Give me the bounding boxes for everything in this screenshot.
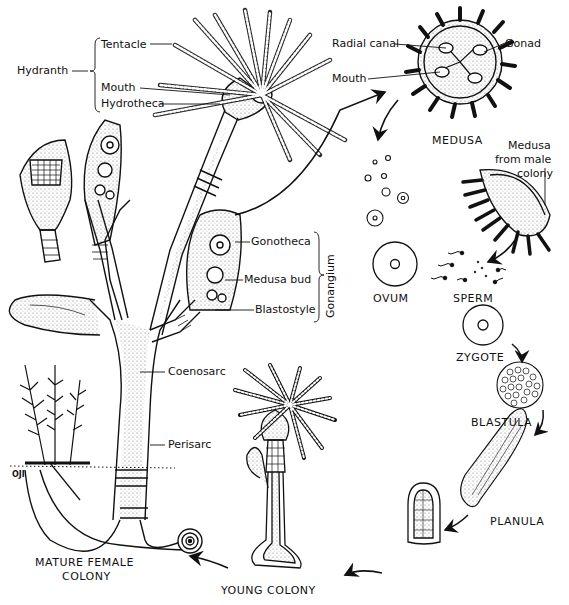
label-hydranth: Hydranth: [17, 65, 68, 77]
colony-silhouette: [10, 365, 175, 500]
label-medusa: MEDUSA: [432, 134, 483, 147]
label-mature-colony-2: COLONY: [62, 570, 111, 583]
zygote: [463, 305, 503, 345]
label-ovum: OVUM: [373, 292, 409, 305]
arrow-medusa-to-eggs: [378, 100, 398, 140]
label-tentacle: Tentacle: [101, 39, 147, 51]
label-zygote: ZYGOTE: [456, 351, 504, 364]
label-blastostyle: Blastostyle: [255, 304, 316, 316]
ovum: [373, 242, 417, 286]
label-radial-canal: Radial canal: [332, 38, 399, 50]
eggs: [365, 156, 409, 227]
arrow-medusa-to-sperm: [488, 240, 515, 262]
label-medusa-bud: Medusa bud: [244, 274, 311, 286]
label-sperm: SPERM: [453, 292, 493, 305]
label-mature-colony-1: MATURE FEMALE: [35, 556, 134, 569]
label-blastula: BLASTULA: [471, 416, 532, 429]
label-gonotheca: Gonotheca: [251, 236, 311, 248]
label-male-medusa-2: from male: [495, 154, 551, 166]
label-hydranth-mouth: Mouth: [101, 82, 135, 94]
label-perisarc: Perisarc: [168, 439, 211, 451]
label-gonad: Gonad: [505, 38, 541, 50]
male-medusa: [463, 168, 550, 254]
label-male-medusa-1: Medusa: [508, 140, 551, 152]
medusa: [368, 8, 515, 117]
sperm: [431, 251, 506, 284]
young-colony: [247, 402, 301, 568]
label-gonangium: Gonangium: [324, 254, 337, 318]
settled-planula: [408, 483, 440, 544]
mature-colony: [9, 78, 272, 553]
label-male-medusa-3: colony: [517, 168, 553, 180]
label-hydrotheca: Hydrotheca: [101, 98, 165, 110]
label-young-colony: YOUNG COLONY: [221, 584, 316, 597]
label-planula: PLANULA: [490, 515, 544, 528]
label-coenosarc: Coenosarc: [168, 366, 226, 378]
label-medusa-mouth: Mouth: [332, 73, 366, 85]
label-scale-mark: OJI: [12, 470, 25, 479]
obelia-life-cycle-diagram: Hydranth Tentacle Mouth Hydrotheca Gonot…: [0, 0, 569, 605]
blastula: [497, 362, 543, 408]
